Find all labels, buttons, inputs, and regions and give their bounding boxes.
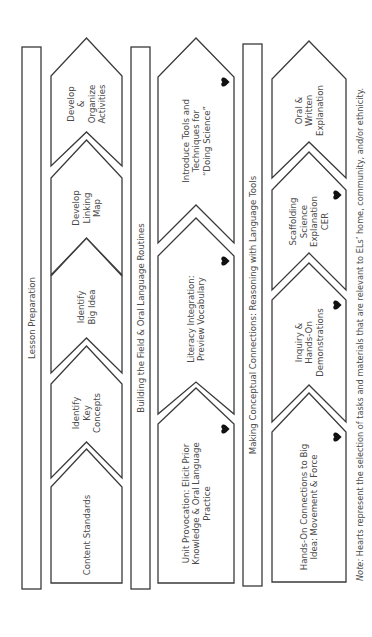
step-label-line: Organize [87,85,97,124]
step-label-line: Hands-On Connections to Big [299,444,309,570]
step-label-line: Demonstrations [315,308,325,377]
step-label-line: Linking [82,193,92,224]
step-label-line: Content Standards [82,494,92,575]
step-label-line: Techniques for [191,109,201,173]
step-label-line: Concepts [92,392,102,433]
step-label-line: Scaffolding [288,198,298,246]
row-lesson-preparation: Lesson PreparationContent StandardsIdent… [22,38,122,589]
step-label: Literacy Integration:Preview Vocabulary [186,275,207,362]
row-building-the-field: Building the Field & Oral Language Routi… [131,38,234,589]
diagram-rows: Lesson PreparationContent StandardsIdent… [22,38,346,589]
step-label-line: Oral & [294,97,304,125]
footnote: Note: Hearts represent the selection of … [355,88,365,581]
step-label-line: Written [304,95,314,127]
step-label: IdentifyBig Idea [76,289,97,324]
section-title: Lesson Preparation [27,277,37,359]
section-title: Building the Field & Oral Language Routi… [136,223,146,413]
step-label-line: Introduce Tools and [181,99,191,183]
step-label-line: Preview Vocabulary [196,277,206,361]
footnote-text: Hearts represent the selection of tasks … [355,88,365,559]
step-label-line: “Doing Science” [202,106,212,176]
step-label-line: Knowledge & Oral Language [191,442,201,565]
step-label-line: & [76,100,86,107]
step-label-line: Identify [71,397,81,429]
step-label-line: Identify [76,291,86,323]
step-label-line: Develop [66,86,76,121]
step-label-line: Map [92,199,102,217]
step-label-line: Inquiry & [294,323,304,363]
row-making-conceptual-connections: Making Conceptual Connections: Reasoning… [243,41,346,586]
step-label-line: Practice [202,486,212,520]
lesson-framework-diagram: Lesson PreparationContent StandardsIdent… [0,0,372,637]
footnote-prefix: Note: [355,559,365,581]
step-label-line: Explanation [315,85,325,136]
step-label-line: Explanation [309,196,319,247]
step-label: Content Standards [82,494,92,575]
step-label-line: Activities [97,84,107,124]
step-label: Introduce Tools andTechniques for“Doing … [181,99,212,183]
section-title: Making Conceptual Connections: Reasoning… [248,175,258,454]
step-label-line: Key [82,405,92,421]
step-label-line: Big Idea [87,289,97,324]
step-label-line: Science [299,205,309,238]
step-label-line: Idea: Movement & Force [309,454,319,559]
step-label-line: Develop [71,190,81,225]
step-label: Develop&OrganizeActivities [66,84,108,124]
step-label-line: CER [320,213,330,230]
step-label-line: Hands-On [304,321,314,364]
step-label-line: Unit Provocation: Elicit Prior [181,443,191,563]
step-label-line: Literacy Integration: [186,275,196,362]
step-label: Hands-On Connections to BigIdea: Movemen… [299,444,320,570]
